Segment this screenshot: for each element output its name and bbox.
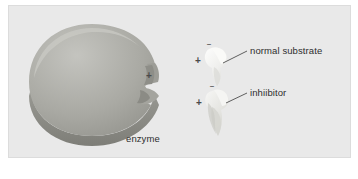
inhibitor-charge-positive: +: [196, 97, 202, 108]
enzyme-body: [29, 24, 155, 136]
enzyme-active-site-charge: +: [146, 70, 152, 81]
figure-panel: + enzyme – + normal substrate: [8, 5, 351, 158]
enzyme-inhibition-figure: + enzyme – + normal substrate: [0, 0, 358, 179]
inhibitor-leader-line: [226, 93, 247, 103]
normal-substrate-label: normal substrate: [250, 45, 322, 56]
normal-substrate-charge-positive: +: [195, 55, 201, 66]
diagram-canvas: + enzyme – + normal substrate: [9, 6, 351, 158]
normal-substrate-charge-negative: –: [207, 39, 212, 48]
enzyme-shape: +: [29, 24, 159, 146]
inhibitor-label: inhiibitor: [250, 87, 286, 98]
enzyme-label: enzyme: [126, 133, 160, 144]
inhibitor-charge-negative: –: [210, 81, 215, 90]
normal-substrate-shape: [205, 47, 227, 86]
inhibitor-shape: [205, 89, 228, 136]
